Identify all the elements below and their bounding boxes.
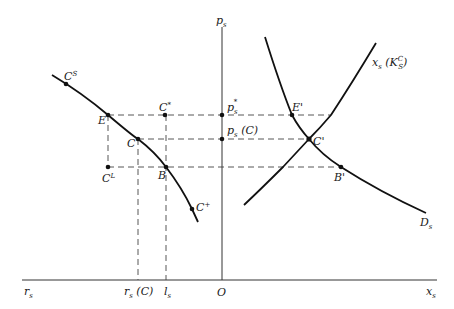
label-supply-curve: xs (KCS): [372, 55, 407, 71]
point-p-c: [220, 137, 225, 142]
label-origin: O: [217, 286, 226, 299]
economics-diagram: ps xs rs O rs (C) ls ps* ps (C) CS E C* …: [0, 0, 454, 309]
label-ls: ls: [164, 285, 172, 300]
label-p-star: ps*: [227, 98, 238, 116]
label-b-prime: B': [333, 171, 345, 184]
label-cl: CL: [102, 172, 115, 185]
point-cl: [106, 165, 111, 170]
label-b: B: [157, 169, 166, 182]
label-xs-axis: xs: [426, 285, 436, 300]
label-c-prime: C': [313, 135, 324, 148]
label-ps-axis: ps: [216, 14, 227, 29]
label-c: C: [127, 137, 136, 150]
supply-curve: [244, 43, 376, 205]
label-rs-axis: rs: [24, 285, 33, 300]
point-c-plus: [190, 207, 195, 212]
label-c-star: C*: [159, 101, 171, 114]
point-b-prime: [339, 165, 344, 170]
point-p-star: [220, 113, 225, 118]
label-demand-curve: Ds: [419, 216, 433, 231]
label-e: E: [97, 114, 106, 127]
label-rs-c: rs (C): [124, 285, 153, 300]
point-c-prime: [306, 136, 311, 141]
left-frontier-curve: [52, 75, 198, 222]
point-e: [106, 113, 111, 118]
label-p-c: ps (C): [227, 124, 258, 139]
label-e-prime: E': [291, 101, 303, 114]
label-cs: CS: [64, 70, 77, 83]
point-c: [136, 137, 141, 142]
label-c-plus: C+: [196, 201, 210, 214]
